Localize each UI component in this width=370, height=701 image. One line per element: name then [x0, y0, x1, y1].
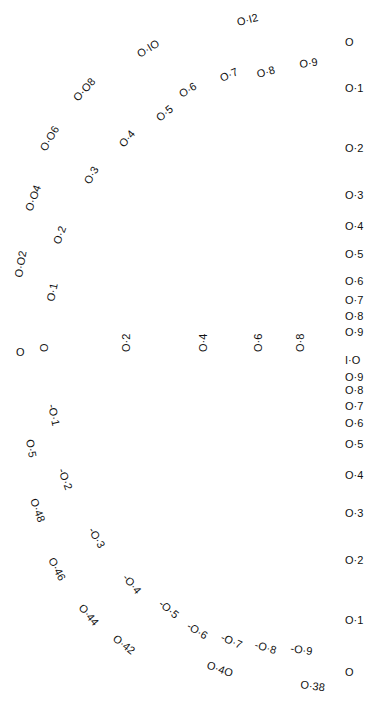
svg-text:-O·9: -O·9	[290, 642, 313, 657]
svg-text:O·9: O·9	[345, 326, 363, 338]
svg-text:O·46: O·46	[46, 555, 68, 582]
svg-text:-O·5: -O·5	[157, 597, 182, 620]
svg-text:O·5: O·5	[345, 438, 363, 450]
svg-text:-O·7: -O·7	[219, 631, 244, 651]
svg-text:-O·8: -O·8	[253, 638, 277, 656]
svg-text:O·8: O·8	[345, 310, 363, 322]
axis-tick-labels: OO·1O·2O·3O·4O·5O·6O·7O·8O·9I·OO·9O·8O·7…	[12, 11, 363, 693]
svg-text:O·6: O·6	[177, 80, 199, 100]
svg-text:O·9: O·9	[345, 371, 363, 383]
svg-text:O·8: O·8	[255, 63, 276, 80]
svg-text:O: O	[38, 343, 50, 352]
svg-text:-O·4: -O·4	[120, 572, 143, 597]
svg-text:O·1: O·1	[345, 614, 363, 626]
svg-text:O·44: O·44	[76, 602, 101, 628]
svg-text:-O·1: -O·1	[46, 403, 62, 427]
svg-text:I·O: I·O	[345, 354, 361, 366]
svg-text:O·5: O·5	[24, 438, 39, 458]
svg-text:O·O8: O·O8	[71, 75, 98, 103]
svg-text:O·6: O·6	[345, 417, 363, 429]
svg-text:O·4: O·4	[197, 334, 209, 352]
svg-text:O·42: O·42	[111, 632, 138, 657]
svg-text:O·3: O·3	[345, 189, 363, 201]
svg-text:O·8: O·8	[345, 384, 363, 396]
svg-text:O·5: O·5	[154, 103, 176, 124]
svg-text:O·48: O·48	[28, 497, 48, 524]
svg-text:O·9: O·9	[299, 56, 319, 70]
svg-text:O·7: O·7	[345, 400, 363, 412]
svg-text:O·4O: O·4O	[205, 659, 235, 680]
svg-text:O·3: O·3	[345, 507, 363, 519]
svg-text:O·2: O·2	[345, 554, 363, 566]
svg-text:O·2: O·2	[51, 224, 69, 245]
svg-text:O·38: O·38	[300, 678, 326, 693]
svg-text:O: O	[345, 666, 354, 678]
svg-text:O·2: O·2	[345, 142, 363, 154]
svg-text:-O·6: -O·6	[185, 620, 210, 642]
svg-text:O·6: O·6	[252, 334, 264, 352]
svg-text:O: O	[16, 346, 25, 358]
svg-text:O·7: O·7	[345, 294, 363, 306]
svg-text:O·8: O·8	[294, 334, 306, 352]
svg-text:O·1: O·1	[44, 282, 60, 302]
svg-text:O·4: O·4	[345, 220, 363, 232]
smith-chart-page: OO·1O·2O·3O·4O·5O·6O·7O·8O·9I·OO·9O·8O·7…	[0, 0, 370, 701]
smith-chart-graphic: OO·1O·2O·3O·4O·5O·6O·7O·8O·9I·OO·9O·8O·7…	[0, 0, 370, 701]
svg-text:O·3: O·3	[81, 164, 101, 186]
svg-text:-O·2: -O·2	[56, 467, 75, 492]
svg-text:O·IO: O·IO	[135, 37, 162, 60]
svg-text:O: O	[345, 36, 354, 48]
svg-text:O·4: O·4	[116, 128, 137, 150]
svg-text:-O·3: -O·3	[86, 525, 107, 550]
svg-text:O·7: O·7	[218, 65, 240, 83]
svg-text:O·6: O·6	[345, 275, 363, 287]
svg-text:O·4: O·4	[345, 469, 363, 481]
svg-text:O·1: O·1	[345, 82, 363, 94]
svg-text:O·O6: O·O6	[37, 124, 61, 153]
svg-text:O·O2: O·O2	[12, 250, 28, 279]
svg-text:O·2: O·2	[120, 334, 132, 352]
svg-text:O·I2: O·I2	[236, 11, 260, 28]
svg-text:O·5: O·5	[345, 248, 363, 260]
svg-text:O·O4: O·O4	[23, 183, 43, 212]
